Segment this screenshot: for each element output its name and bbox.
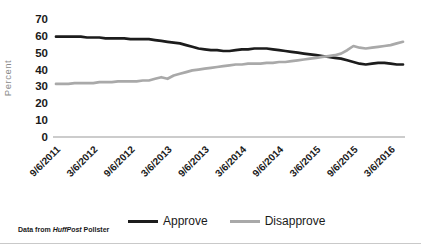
x-tick-label: 9/6/2015 xyxy=(325,143,361,179)
legend-label-disapprove: Disapprove xyxy=(265,214,326,228)
approval-line-chart: 010203040506070Percent9/6/20113/6/20129/… xyxy=(0,0,421,250)
footnote-source: HuffPost xyxy=(53,226,82,233)
x-tick-label: 3/6/2014 xyxy=(213,143,249,179)
legend-item-approve: Approve xyxy=(128,214,208,228)
y-tick-label: 0 xyxy=(42,131,48,143)
approval-chart-figure: 010203040506070Percent9/6/20113/6/20129/… xyxy=(0,0,421,250)
legend-label-approve: Approve xyxy=(163,214,208,228)
x-tick-label: 3/6/2012 xyxy=(64,143,100,179)
footnote-suffix: Pollster xyxy=(82,226,110,233)
x-tick-label: 3/6/2016 xyxy=(362,143,398,179)
y-tick-label: 40 xyxy=(35,64,48,76)
footnote-prefix: Data from xyxy=(18,226,53,233)
x-tick-label: 3/6/2015 xyxy=(287,143,323,179)
y-tick-label: 20 xyxy=(35,97,48,109)
y-axis-title: Percent xyxy=(2,60,13,96)
y-tick-label: 10 xyxy=(35,114,48,126)
approve-line xyxy=(56,37,403,65)
data-source-footnote: Data from HuffPost Pollster xyxy=(18,226,109,233)
approve-line-swatch xyxy=(128,220,158,223)
y-tick-label: 70 xyxy=(35,13,48,25)
x-tick-label: 9/6/2013 xyxy=(176,143,212,179)
figure-bottom-border xyxy=(0,243,421,244)
x-tick-label: 9/6/2012 xyxy=(101,143,137,179)
x-tick-label: 3/6/2013 xyxy=(139,143,175,179)
legend-item-disapprove: Disapprove xyxy=(230,214,326,228)
disapprove-line xyxy=(56,42,403,84)
disapprove-line-swatch xyxy=(230,220,260,223)
chart-legend: Approve Disapprove xyxy=(128,214,325,228)
x-tick-label: 9/6/2011 xyxy=(28,143,63,178)
y-tick-label: 50 xyxy=(35,47,48,59)
y-tick-label: 60 xyxy=(35,30,48,42)
x-tick-label: 9/6/2014 xyxy=(250,143,286,179)
y-tick-label: 30 xyxy=(35,80,48,92)
